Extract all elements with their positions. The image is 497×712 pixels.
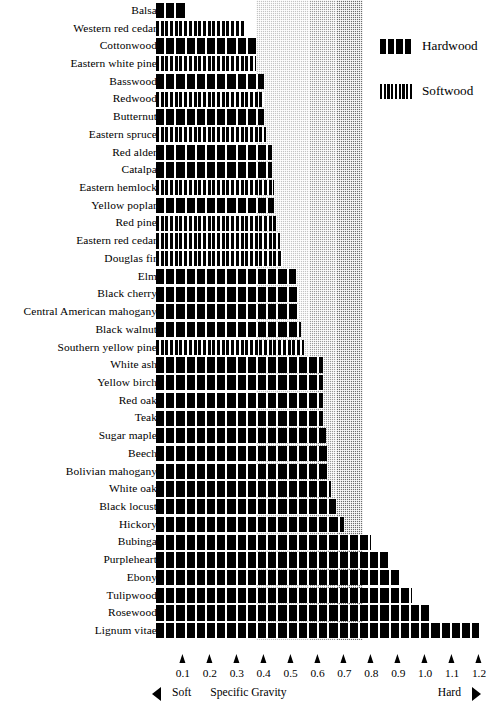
axis-tick-label: 1.0 [418,667,432,679]
bar-hardwood [156,393,323,408]
bar-hardwood [156,570,401,585]
bar-row: Teak [0,410,497,428]
axis-tick-mark [233,654,239,663]
bar-row: Black cherry [0,286,497,304]
bar-label: Sugar maple [99,430,157,441]
bar-row: Hickory [0,516,497,534]
bar-row: Beech [0,445,497,463]
bar-row: Bubinga [0,534,497,552]
bar-row: Rosewood [0,604,497,622]
arrow-right-icon [472,687,481,701]
bar-row: White oak [0,480,497,498]
bar-hardwood [156,162,272,177]
axis-tick-label: 0.7 [337,667,351,679]
bar-row: Ebony [0,569,497,587]
bar-row: Eastern hemlock [0,179,497,197]
hardwood-swatch-icon [380,39,413,54]
bar-label: White ash [110,360,157,371]
bar-label: Bubinga [118,537,157,548]
bar-hardwood [156,605,431,620]
axis-label-hard: Hard [438,686,461,699]
bar-hardwood [156,287,299,302]
axis-tick-mark [179,654,185,663]
axis-tick-label: 1.1 [445,667,459,679]
bar-row: White ash [0,356,497,374]
bar-hardwood [156,428,326,443]
bar-row: Eastern spruce [0,126,497,144]
bar-hardwood [156,464,328,479]
bar-label: Western red cedar [73,23,157,34]
bar-label: Beech [128,448,157,459]
bar-hardwood [156,109,264,124]
bar-row: Black locust [0,498,497,516]
bar-hardwood [156,446,328,461]
bar-label: Purpleheart [103,554,157,565]
bar-row: Eastern red cedar [0,232,497,250]
axis-tick-label: 0.5 [283,667,297,679]
bar-row: Red alder [0,144,497,162]
bar-label: White oak [109,484,157,495]
bar-label: Lignum vitae [95,625,157,636]
axis-tick-mark [395,654,401,663]
axis-tick-label: 0.6 [310,667,324,679]
x-axis: 0.10.20.30.40.50.60.70.80.91.01.11.2 Sof… [0,645,497,712]
bar-label: Bolivian mahogany [66,466,157,477]
bar-row: Bolivian mahogany [0,463,497,481]
axis-tick-mark [449,654,455,663]
bar-label: Douglas fir [104,253,157,264]
bar-label: Eastern red cedar [76,236,157,247]
axis-tick-mark [260,654,266,663]
bar-hardwood [156,322,301,337]
axis-tick-mark [422,654,428,663]
bar-label: Tulipwood [107,590,158,601]
axis-tick-label: 0.2 [203,667,217,679]
axis-tick-label: 1.2 [472,667,486,679]
bar-hardwood [156,375,323,390]
bar-softwood [156,216,277,231]
bar-label: Red alder [112,147,157,158]
axis-tick-label: 0.8 [364,667,378,679]
axis-tick-label: 0.1 [176,667,190,679]
chart-legend: Hardwood Softwood [380,38,497,128]
bar-softwood [156,340,304,355]
axis-tick-mark [341,654,347,663]
legend-label-hardwood: Hardwood [422,38,478,54]
bar-row: Yellow poplar [0,197,497,215]
bar-row: Elm [0,268,497,286]
axis-tick-mark [287,654,293,663]
axis-tick-mark [475,654,481,663]
bar-label: Basswood [109,76,157,87]
bar-hardwood [156,535,371,550]
bar-row: Lignum vitae [0,622,497,640]
axis-tick-label: 0.9 [391,667,405,679]
bar-hardwood [156,517,344,532]
bar-hardwood [156,623,479,638]
bar-hardwood [156,481,331,496]
bar-label: Eastern hemlock [79,182,157,193]
bar-hardwood [156,38,256,53]
legend-item-hardwood: Hardwood [380,38,497,54]
bar-row: Black walnut [0,321,497,339]
bar-label: Catalpa [122,165,158,176]
bar-hardwood [156,269,296,284]
bar-hardwood [156,145,272,160]
bar-softwood [156,56,256,71]
bar-row: Tulipwood [0,587,497,605]
bar-softwood [156,127,266,142]
bar-row: Purpleheart [0,551,497,569]
softwood-swatch-icon [380,84,413,99]
bar-hardwood [156,499,336,514]
bar-hardwood [156,198,274,213]
bar-softwood [156,21,245,36]
bar-label: Eastern white pine [70,58,157,69]
bar-label: Red pine [115,218,157,229]
bar-row: Southern yellow pine [0,339,497,357]
bar-label: Southern yellow pine [58,342,157,353]
bar-label: Teak [135,413,157,424]
bar-label: Yellow poplar [91,200,157,211]
bar-hardwood [156,74,264,89]
bar-row: Sugar maple [0,427,497,445]
bar-row: Catalpa [0,161,497,179]
bar-row: Western red cedar [0,20,497,38]
legend-item-softwood: Softwood [380,83,497,99]
